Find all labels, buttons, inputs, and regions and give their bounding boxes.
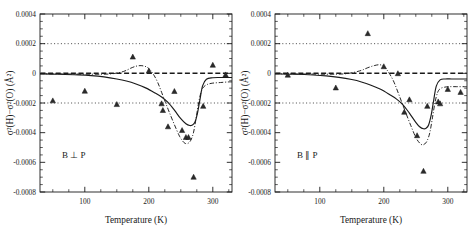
data-point-triangle bbox=[82, 88, 87, 93]
y-tick-label: -0.0006 bbox=[248, 158, 271, 167]
y-tick-label: 0.0004 bbox=[16, 10, 37, 19]
data-point-triangle bbox=[402, 109, 407, 114]
y-tick-label: -0.0008 bbox=[248, 188, 271, 197]
panel-annotation: B ∥ P bbox=[297, 150, 318, 160]
y-tick-label: 0.0004 bbox=[251, 10, 272, 19]
data-point-triangle bbox=[114, 102, 119, 107]
data-point-triangle bbox=[407, 97, 412, 102]
plot-svg-left: 0.00040.00020-0.0002-0.0004-0.0006-0.000… bbox=[0, 0, 235, 244]
data-point-triangle bbox=[458, 89, 463, 94]
data-point-triangle bbox=[50, 98, 55, 103]
data-point-triangle bbox=[381, 64, 386, 69]
y-axis-label: σ²(H)−σ²(O) (Å²) bbox=[4, 71, 16, 136]
y-tick-label: 0 bbox=[32, 69, 36, 78]
data-point-triangle bbox=[165, 124, 170, 129]
x-tick-label: 100 bbox=[79, 197, 90, 206]
svg-text:σ²(H)−σ²(O) (Å²): σ²(H)−σ²(O) (Å²) bbox=[239, 71, 251, 136]
x-tick-label: 300 bbox=[442, 197, 453, 206]
x-tick-label: 300 bbox=[207, 197, 218, 206]
y-tick-label: -0.0002 bbox=[13, 99, 36, 108]
data-point-triangle bbox=[130, 54, 135, 59]
y-tick-label: 0.0002 bbox=[251, 39, 272, 48]
panel-annotation: B ⊥ P bbox=[62, 150, 86, 160]
x-tick-label: 200 bbox=[378, 197, 389, 206]
data-point-triangle bbox=[365, 31, 370, 36]
x-axis-label: Temperature (K) bbox=[105, 215, 167, 226]
panel-left-b-perp-p: 0.00040.00020-0.0002-0.0004-0.0006-0.000… bbox=[0, 0, 235, 244]
data-point-triangle bbox=[425, 103, 430, 108]
data-point-triangle bbox=[201, 103, 206, 108]
data-point-triangle bbox=[179, 128, 184, 133]
y-tick-label: -0.0004 bbox=[13, 128, 36, 137]
data-point-triangle bbox=[160, 108, 165, 113]
y-tick-label: -0.0006 bbox=[13, 158, 36, 167]
figure-two-panel-sigma-plot: 0.00040.00020-0.0002-0.0004-0.0006-0.000… bbox=[0, 0, 470, 244]
y-tick-label: 0.0002 bbox=[16, 39, 37, 48]
y-tick-label: 0 bbox=[267, 69, 271, 78]
panel-right-b-par-p: 0.00040.00020-0.0002-0.0004-0.0006-0.000… bbox=[235, 0, 470, 244]
svg-text:σ²(H)−σ²(O) (Å²): σ²(H)−σ²(O) (Å²) bbox=[4, 71, 16, 136]
x-axis-label: Temperature (K) bbox=[340, 215, 402, 226]
curve-solid-model bbox=[40, 74, 232, 126]
data-point-triangle bbox=[333, 85, 338, 90]
data-point-triangle bbox=[210, 62, 215, 67]
y-tick-label: -0.0004 bbox=[248, 128, 271, 137]
y-tick-label: -0.0002 bbox=[248, 99, 271, 108]
data-point-triangle bbox=[172, 89, 177, 94]
x-tick-label: 100 bbox=[314, 197, 325, 206]
plot-svg-right: 0.00040.00020-0.0002-0.0004-0.0006-0.000… bbox=[235, 0, 470, 244]
x-tick-label: 200 bbox=[143, 197, 154, 206]
data-point-triangle bbox=[146, 68, 151, 73]
data-point-triangle bbox=[421, 168, 426, 173]
y-axis-label: σ²(H)−σ²(O) (Å²) bbox=[239, 71, 251, 136]
data-point-triangle bbox=[191, 174, 196, 179]
y-tick-label: -0.0008 bbox=[13, 188, 36, 197]
